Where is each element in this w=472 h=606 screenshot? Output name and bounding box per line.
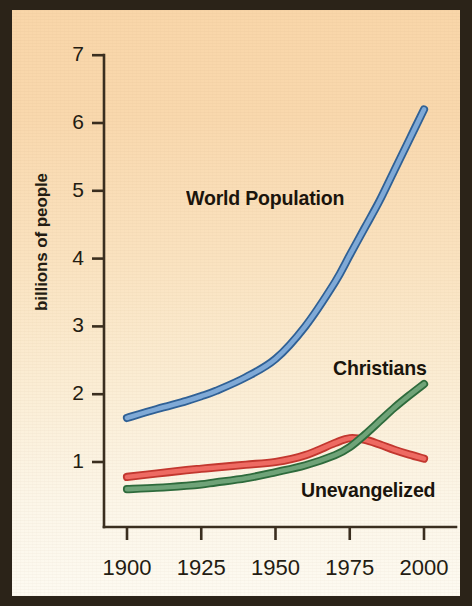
y-axis-tick-label: 5 <box>58 178 84 202</box>
x-axis-tick-label: 1975 <box>315 555 385 581</box>
data-series-layer <box>127 109 424 489</box>
y-axis-title: billions of people <box>32 172 52 312</box>
y-axis-tick-label: 2 <box>58 381 84 405</box>
x-axis-tick-marks <box>127 527 424 540</box>
y-axis-tick-label: 3 <box>58 313 84 337</box>
x-axis-tick-label: 2000 <box>389 555 459 581</box>
y-axis-tick-label: 7 <box>58 42 84 66</box>
x-axis-tick-label: 1925 <box>166 555 236 581</box>
x-axis-tick-label: 1950 <box>241 555 311 581</box>
y-axis-tick-label: 4 <box>58 246 84 270</box>
plot-area <box>0 0 472 606</box>
x-axis-tick-label: 1900 <box>92 555 162 581</box>
series-label-christians: Christians <box>333 356 427 380</box>
chart-figure: billions of people 1234567 1900192519501… <box>0 0 472 606</box>
y-axis-tick-marks <box>92 55 104 462</box>
series-label-world-population: World Population <box>186 186 344 210</box>
y-axis-tick-label: 6 <box>58 110 84 134</box>
y-axis-tick-label: 1 <box>58 449 84 473</box>
series-label-unevangelized: Unevangelized <box>301 478 435 502</box>
